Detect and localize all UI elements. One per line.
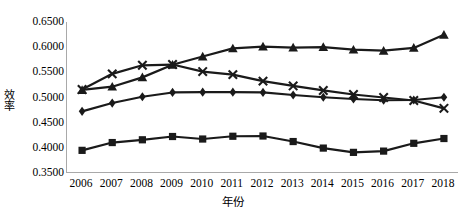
- data-point-square: [440, 135, 447, 142]
- data-point-square: [109, 139, 116, 146]
- data-point-square: [229, 133, 236, 140]
- y-axis-tick-label: 0.5500: [18, 66, 64, 77]
- y-axis-tick-label: 0.6000: [18, 41, 64, 52]
- data-point-square: [290, 138, 297, 145]
- data-point-square: [78, 147, 85, 154]
- series-line: [82, 65, 444, 109]
- data-point-square: [380, 148, 387, 155]
- series-x: [78, 60, 448, 112]
- series-diamond: [79, 88, 447, 116]
- line-chart: 效率 0.35000.40000.45000.50000.55000.60000…: [0, 0, 466, 217]
- data-point-diamond: [79, 107, 86, 116]
- y-axis-tick-label: 0.4500: [18, 117, 64, 128]
- y-axis-tick-label: 0.5000: [18, 92, 64, 103]
- y-axis-tick-label: 0.3500: [18, 167, 64, 178]
- y-axis-title: 效率: [1, 78, 15, 122]
- data-point-square: [139, 136, 146, 143]
- series-triangle: [77, 30, 448, 94]
- data-point-diamond: [230, 88, 237, 97]
- data-point-square: [169, 133, 176, 140]
- x-axis-title: 年份: [0, 196, 466, 209]
- plot-series-svg: [67, 22, 459, 173]
- data-point-square: [259, 132, 266, 139]
- series-square: [78, 132, 447, 156]
- y-axis-tick-label: 0.4000: [18, 142, 64, 153]
- data-point-diamond: [109, 98, 116, 107]
- x-axis-tick-label: 2018: [423, 177, 463, 189]
- data-point-diamond: [199, 88, 206, 97]
- data-point-square: [410, 140, 417, 147]
- data-point-square: [350, 149, 357, 156]
- data-point-diamond: [290, 90, 297, 99]
- data-point-diamond: [441, 93, 448, 102]
- data-point-square: [320, 144, 327, 151]
- data-point-square: [199, 135, 206, 142]
- y-axis-tick-label: 0.6500: [18, 16, 64, 27]
- plot-area: [66, 22, 458, 173]
- data-point-diamond: [260, 88, 267, 97]
- data-point-diamond: [169, 88, 176, 97]
- data-point-triangle: [439, 30, 449, 39]
- data-point-diamond: [139, 92, 146, 101]
